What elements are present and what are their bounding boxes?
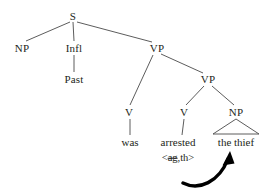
branch-vplower-to-np	[212, 86, 234, 105]
branch-s-to-vp	[77, 22, 152, 42]
node-np-object: NP	[229, 107, 243, 118]
node-infl: Infl	[66, 43, 83, 54]
branch-vplower-to-v	[186, 86, 204, 105]
node-v-main: V	[180, 107, 188, 118]
np-object-triangle	[213, 119, 259, 134]
node-v-aux: V	[125, 107, 133, 118]
branch-s-to-np	[26, 22, 70, 41]
node-vp-lower: VP	[201, 74, 215, 85]
terminal-was: was	[121, 137, 138, 148]
theta-grid-annotation: <ag,th>	[162, 153, 195, 164]
terminal-the-thief: the thief	[218, 137, 254, 148]
terminal-arrested: arrested	[161, 137, 196, 148]
branch-v-to-arrested	[182, 119, 184, 135]
branch-s-to-infl	[73, 22, 74, 41]
branch-vpupper-to-vp	[161, 54, 203, 73]
node-s: S	[70, 11, 76, 22]
tree-lines-layer	[0, 0, 275, 191]
node-np-subject: NP	[15, 43, 29, 54]
node-past: Past	[64, 74, 83, 85]
node-vp-upper: VP	[150, 43, 164, 54]
movement-arrow-head	[223, 151, 235, 166]
syntax-tree-figure: S NP Infl Past VP VP V V NP was arrested…	[0, 0, 275, 191]
theta-role-agent-suppressed: ag	[168, 152, 178, 163]
branch-vpupper-to-v	[130, 55, 153, 105]
theta-role-theme: th	[180, 152, 188, 163]
theta-grid-close: >	[188, 152, 194, 163]
